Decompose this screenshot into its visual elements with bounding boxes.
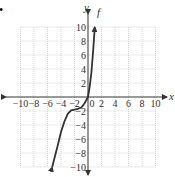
svg-text:6: 6 bbox=[81, 50, 86, 61]
y-axis-label: y bbox=[83, 1, 89, 13]
svg-text:−4: −4 bbox=[56, 98, 67, 109]
svg-text:8: 8 bbox=[140, 98, 145, 109]
svg-text:−6: −6 bbox=[75, 134, 86, 145]
axes bbox=[6, 14, 167, 175]
svg-text:−4: −4 bbox=[75, 120, 86, 131]
svg-text:−8: −8 bbox=[75, 148, 86, 159]
svg-text:6: 6 bbox=[126, 98, 131, 109]
svg-text:−10: −10 bbox=[13, 98, 29, 109]
svg-text:4: 4 bbox=[113, 98, 118, 109]
svg-text:2: 2 bbox=[99, 98, 104, 109]
svg-text:4: 4 bbox=[81, 64, 86, 75]
svg-text:−8: −8 bbox=[29, 98, 40, 109]
function-label: f bbox=[97, 6, 102, 18]
svg-text:10: 10 bbox=[151, 98, 161, 109]
svg-text:−10: −10 bbox=[70, 162, 86, 173]
svg-text:−6: −6 bbox=[42, 98, 53, 109]
svg-text:10: 10 bbox=[76, 22, 86, 33]
x-axis-label: x bbox=[168, 90, 174, 102]
svg-text:2: 2 bbox=[81, 78, 86, 89]
svg-text:0: 0 bbox=[90, 98, 95, 109]
function-graph: −10−8−6−4−20246810108642−2−4−6−8−10 x y … bbox=[0, 0, 175, 177]
svg-text:8: 8 bbox=[81, 36, 86, 47]
